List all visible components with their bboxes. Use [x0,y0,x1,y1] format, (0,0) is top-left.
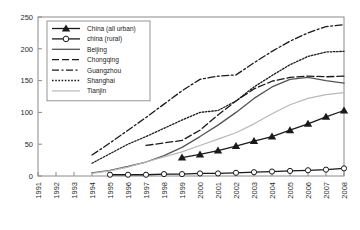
x-tick-label: 2001 [214,182,223,199]
x-tick-label: 2002 [232,182,241,199]
series-china-all-urban [178,106,348,160]
data-marker-circle [269,169,274,174]
x-tick-label: 1992 [52,182,61,199]
legend-label: china (rural) [87,35,122,43]
x-tick-label: 1994 [88,182,97,199]
y-tick-label: 250 [20,13,33,22]
x-tick-label: 1993 [70,182,79,199]
data-marker-circle [107,172,112,177]
data-marker-circle [233,170,238,175]
y-tick-label: 0 [29,172,33,181]
series-chongqing [146,76,344,145]
data-marker-circle [161,171,166,176]
x-tick-label: 2005 [286,182,295,199]
legend-marker-circle [63,36,69,42]
x-tick-label: 2000 [196,182,205,199]
data-marker-circle [251,170,256,175]
data-marker-circle [197,171,202,176]
data-marker-circle [323,167,328,172]
y-tick-label: 100 [20,108,33,117]
data-marker-circle [287,168,292,173]
series-tianjin [92,93,344,174]
x-tick-label: 2007 [322,182,331,199]
x-tick-label: 1995 [106,182,115,199]
series-line [146,76,344,145]
series-line [182,110,344,157]
data-marker-circle [341,166,346,171]
legend-label: Guangzhou [87,67,121,75]
data-marker-circle [143,172,148,177]
data-marker-circle [215,171,220,176]
x-tick-label: 1991 [34,182,43,199]
series-line [92,93,344,174]
y-tick-label: 200 [20,45,33,54]
x-tick-label: 2006 [304,182,313,199]
y-axis-ticks: 050100150200250 [20,13,42,181]
legend-label: China (all urban) [87,25,136,33]
x-tick-label: 2003 [250,182,259,199]
data-marker-circle [305,168,310,173]
x-tick-label: 1996 [124,182,133,199]
chart-legend: China (all urban)china (rural)BeijingCho… [47,21,150,101]
x-tick-label: 2004 [268,182,277,199]
x-tick-label: 1999 [178,182,187,199]
x-tick-label: 1998 [160,182,169,199]
chart-container: 050100150200250 199119921993199419951996… [0,0,360,230]
legend-label: Chongqing [87,56,119,64]
data-marker-circle [179,171,184,176]
data-marker-triangle [340,106,348,113]
legend-label: Beijing [87,46,107,54]
legend-label: Tianjin [87,87,107,95]
y-tick-label: 50 [25,140,33,149]
x-tick-label: 1997 [142,182,151,199]
line-chart-svg: 050100150200250 199119921993199419951996… [0,0,360,230]
data-marker-circle [125,172,130,177]
x-tick-label: 2008 [340,182,349,199]
legend-label: Shanghai [87,77,115,85]
y-tick-label: 150 [20,76,33,85]
